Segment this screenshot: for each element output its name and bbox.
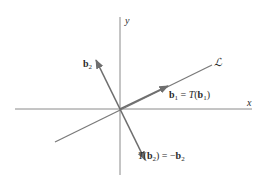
vector-b1	[120, 86, 168, 109]
reflection-diagram: x y ℒ b1 = T(b1) b2 T(b2) = −b2	[0, 0, 266, 183]
vector-b1-label: b1 = T(b1)	[169, 89, 210, 102]
vector-b2	[96, 60, 120, 109]
y-axis-label: y	[124, 15, 130, 26]
line-L	[55, 65, 212, 142]
x-axis-label: x	[246, 97, 252, 108]
vector-Tb2-label: T(b2) = −b2	[138, 150, 185, 163]
line-L-label: ℒ	[214, 56, 223, 68]
vector-b2-label: b2	[83, 58, 93, 71]
